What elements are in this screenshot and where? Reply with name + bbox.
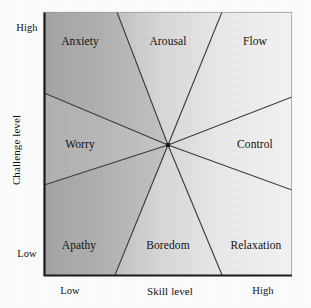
- x-axis-low-label: Low: [60, 286, 80, 297]
- x-axis-high-label: High: [252, 286, 273, 297]
- zone-label-relaxation: Relaxation: [231, 240, 282, 252]
- zone-label-worry: Worry: [65, 139, 95, 151]
- x-axis-title: Skill level: [147, 286, 193, 297]
- zone-label-anxiety: Anxiety: [61, 36, 99, 48]
- zone-label-boredom: Boredom: [146, 240, 190, 252]
- zone-label-flow: Flow: [243, 36, 267, 48]
- figure-canvas: Anxiety Arousal Flow Worry Control Apath…: [0, 0, 311, 308]
- y-axis-high-label: High: [16, 23, 37, 34]
- center-point: [166, 143, 170, 147]
- zone-label-arousal: Arousal: [149, 36, 186, 48]
- zone-label-apathy: Apathy: [62, 240, 96, 252]
- y-axis-title: Challenge level: [11, 115, 22, 185]
- zone-label-control: Control: [237, 139, 273, 151]
- y-axis-low-label: Low: [17, 249, 37, 260]
